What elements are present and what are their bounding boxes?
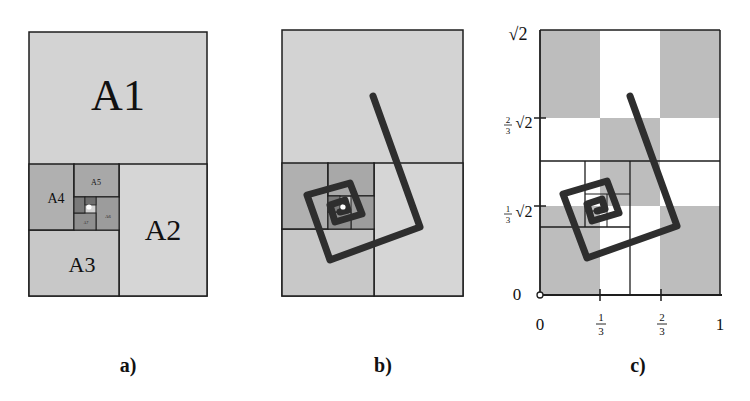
- x-label-two-thirds-num: 2: [659, 311, 665, 323]
- y-label-two-thirds-den: 3: [506, 126, 511, 136]
- caption-c: c): [630, 354, 646, 377]
- checker-cell: [540, 30, 600, 118]
- checker-cell: [660, 30, 720, 118]
- y-label-two-thirds-sqrt: √2: [516, 114, 533, 131]
- label-a6: A6: [105, 214, 111, 219]
- center-point: [86, 204, 91, 209]
- center-point-b: [340, 204, 345, 209]
- x-label-third-num: 1: [598, 311, 604, 323]
- x-label-two-thirds-den: 3: [659, 325, 665, 337]
- checker-cell: [660, 206, 720, 295]
- y-label-third-num: 1: [506, 204, 511, 214]
- label-a5: A5: [91, 178, 101, 187]
- region-a8-box: [74, 197, 85, 213]
- label-a7: A7: [84, 221, 89, 225]
- label-a1: A1: [91, 71, 145, 120]
- y-label-third-den: 3: [506, 215, 511, 225]
- panel-c: 0 1 3 2 3 1 0 1 3 √2 2 3 √2 √2 c): [504, 24, 724, 377]
- x-label-0: 0: [536, 315, 545, 334]
- x-label-1: 1: [716, 315, 725, 334]
- caption-b: b): [374, 354, 392, 377]
- panel-a: A1 A2 A3 A4 A5 A6 A7 a): [29, 32, 207, 377]
- x-label-third-den: 3: [598, 325, 604, 337]
- label-a3: A3: [69, 252, 96, 277]
- y-label-sqrt2: √2: [509, 24, 528, 44]
- panel-b: b): [282, 30, 463, 377]
- figure-canvas: A1 A2 A3 A4 A5 A6 A7 a) b): [0, 0, 750, 401]
- y-label-0: 0: [513, 285, 522, 304]
- caption-a: a): [120, 354, 137, 377]
- label-a2: A2: [145, 213, 182, 246]
- y-label-third-sqrt: √2: [516, 203, 533, 220]
- label-a4: A4: [47, 191, 64, 206]
- origin-marker: [537, 292, 543, 298]
- y-label-two-thirds-num: 2: [506, 115, 511, 125]
- region-a9-box: [85, 197, 96, 205]
- checker-cell: [660, 118, 720, 206]
